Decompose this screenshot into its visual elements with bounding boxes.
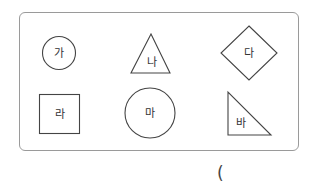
shape-da-diamond: 다 bbox=[221, 26, 277, 80]
shape-ra-square: 라 bbox=[40, 95, 80, 134]
shapes-diagram: 가 나 다 라 마 바 bbox=[0, 0, 311, 194]
shape-na-triangle: 나 bbox=[131, 34, 170, 73]
shape-label-ma: 마 bbox=[145, 107, 155, 120]
answer-paren: ( bbox=[217, 163, 224, 183]
shape-ma-circle: 마 bbox=[125, 88, 175, 138]
shape-label-da: 다 bbox=[244, 47, 254, 60]
shape-ba-right-triangle: 바 bbox=[228, 92, 271, 135]
shape-label-ra: 라 bbox=[55, 108, 65, 121]
shape-label-ga: 가 bbox=[54, 47, 64, 60]
shape-ga-circle: 가 bbox=[43, 37, 76, 70]
shape-label-ba: 바 bbox=[236, 117, 246, 130]
shape-label-na: 나 bbox=[147, 56, 157, 69]
